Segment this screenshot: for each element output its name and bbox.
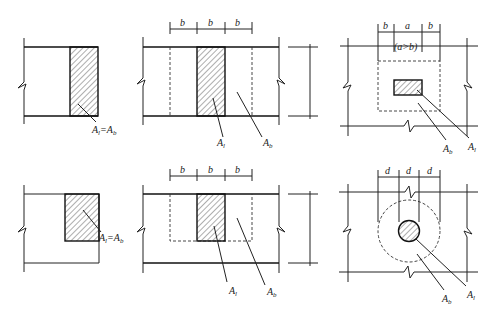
panel-top-left: Al=Ab [18,38,117,137]
label-al-eq-ab: Al=Ab [98,232,124,245]
dim-b-1: b [180,17,185,28]
local-area-hatched [197,194,225,241]
panel-top-middle: b b b Al Ab [137,17,318,150]
dim-a: a [405,20,410,31]
label-ab: Ab [442,143,453,156]
local-area-hatched [197,47,225,116]
dim-b-1: b [180,164,185,175]
label-al-eq-ab: Al=Ab [91,124,117,137]
panel-top-right: b a b (a>b) Ab Al [340,20,478,156]
label-al: Al [228,285,237,298]
label-ab: Ab [266,286,277,299]
dim-b-right: b [428,20,433,31]
label-ab: Ab [441,293,452,306]
label-al: Al [466,289,475,302]
label-al: Al [467,141,476,154]
panel-bottom-right: d d d Ab Al [339,165,478,306]
local-area-hatched-circle [399,221,420,242]
dim-d-1: d [385,165,391,176]
local-area-hatched [70,47,98,116]
dim-d-2: d [406,165,412,176]
local-area-hatched [394,80,422,95]
bearing-area-diagram: Al=Ab b b b Al Ab [0,0,495,314]
local-area-hatched [65,194,99,241]
dim-b-2: b [208,164,213,175]
dim-b-left: b [383,20,388,31]
label-al: Al [216,137,225,150]
dim-d-3: d [427,165,433,176]
dim-b-3: b [235,164,240,175]
condition-a-gt-b: (a>b) [394,41,418,53]
label-ab: Ab [262,137,273,150]
panel-bottom-left: Al=Ab [18,185,124,272]
dim-b-2: b [208,17,213,28]
dim-b-3: b [235,17,240,28]
panel-bottom-middle: b b b Al Ab [137,164,318,299]
